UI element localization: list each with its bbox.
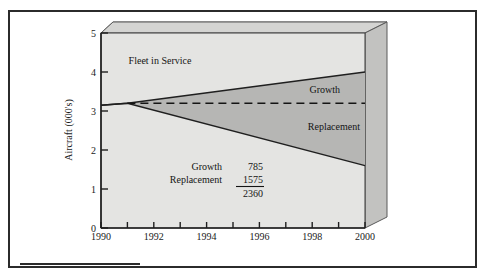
y-tick-label-3: 3 <box>91 106 96 117</box>
x-tick-label-1996: 1996 <box>249 231 269 242</box>
x-axis-tick-labels: 1990 1992 1994 1996 1998 2000 <box>91 231 375 242</box>
y-axis-tick-labels: 0 1 2 3 4 5 <box>91 28 96 234</box>
x-tick-label-1992: 1992 <box>144 231 164 242</box>
aircraft-fleet-chart: 0 1 2 3 4 5 1990 1992 1994 1996 <box>0 0 488 279</box>
table-row-label-replacement: Replacement <box>170 174 222 185</box>
table-total-value: 2360 <box>243 188 263 199</box>
table-row-label-growth: Growth <box>191 161 222 172</box>
x-tick-label-1990: 1990 <box>91 231 111 242</box>
x-tick-label-1998: 1998 <box>302 231 322 242</box>
table-row-value-growth: 785 <box>248 161 263 172</box>
y-tick-label-2: 2 <box>91 145 96 156</box>
y-tick-label-5: 5 <box>91 28 96 39</box>
label-growth: Growth <box>309 84 340 95</box>
y-tick-label-1: 1 <box>91 184 96 195</box>
box-top-face-2 <box>101 22 387 33</box>
label-fleet-in-service: Fleet in Service <box>129 55 192 66</box>
table-row-value-replacement: 1575 <box>243 174 263 185</box>
x-tick-label-1994: 1994 <box>197 231 217 242</box>
figure-root: 0 1 2 3 4 5 1990 1992 1994 1996 <box>0 0 488 279</box>
caption-separator-rule <box>20 263 140 265</box>
y-tick-label-4: 4 <box>91 67 96 78</box>
label-replacement: Replacement <box>308 121 360 132</box>
x-tick-label-2000: 2000 <box>355 231 375 242</box>
y-axis-title: Aircraft (000's) <box>63 99 75 161</box>
box-right-face <box>365 22 387 228</box>
